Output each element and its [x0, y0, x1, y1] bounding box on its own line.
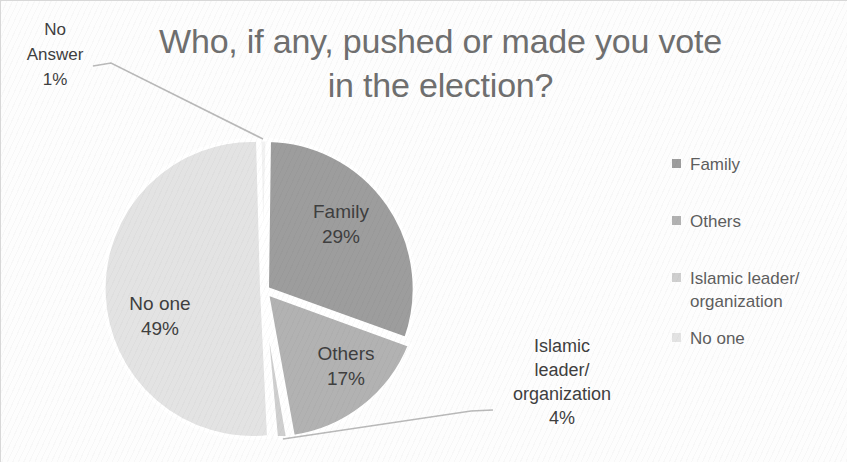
- slice-label-others-name: Others: [317, 343, 374, 364]
- legend-label-no-one: No one: [690, 327, 745, 350]
- slice-label-islamic-leader: Islamic leader/ organization 4%: [496, 334, 628, 430]
- slice-label-no-one-value: 49%: [104, 316, 216, 341]
- slice-label-no-answer-value: 1%: [11, 67, 99, 92]
- chart-title-line-1: Who, if any, pushed or made you vote: [113, 19, 768, 63]
- slice-label-islamic-line-1: Islamic: [496, 334, 628, 358]
- pie-chart-figure: Who, if any, pushed or made you vote in …: [0, 0, 847, 462]
- pie-slice-no-one[interactable]: [104, 140, 269, 438]
- legend-swatch-icon-others: [672, 216, 681, 225]
- legend-item-islamic-leader[interactable]: Islamic leader/ organization: [672, 267, 844, 313]
- slice-label-others: Others 17%: [301, 341, 391, 391]
- slice-label-family-value: 29%: [296, 224, 386, 249]
- legend-label-family: Family: [690, 153, 740, 176]
- legend-swatch-icon-family: [672, 159, 681, 168]
- slice-label-no-one-name: No one: [129, 293, 190, 314]
- chart-legend: Family Others Islamic leader/ organizati…: [672, 153, 844, 384]
- legend-swatch-icon-no-one: [672, 333, 681, 342]
- legend-label-islamic-leader-line-2: organization: [690, 292, 783, 311]
- legend-swatch-icon-islamic-leader: [672, 273, 681, 282]
- slice-label-islamic-line-2: leader/: [496, 358, 628, 382]
- slice-label-no-one: No one 49%: [104, 291, 216, 341]
- slice-label-islamic-value: 4%: [496, 406, 628, 430]
- legend-item-family[interactable]: Family: [672, 153, 844, 176]
- legend-item-no-one[interactable]: No one: [672, 327, 844, 350]
- legend-item-others[interactable]: Others: [672, 210, 844, 233]
- legend-label-islamic-leader-line-1: Islamic leader/: [690, 269, 800, 288]
- slice-label-family: Family 29%: [296, 199, 386, 249]
- chart-title: Who, if any, pushed or made you vote in …: [113, 19, 768, 107]
- slice-label-no-answer-line-2: Answer: [11, 42, 99, 67]
- legend-label-others: Others: [690, 210, 741, 233]
- slice-label-no-answer: No Answer 1%: [11, 17, 99, 92]
- slice-label-others-value: 17%: [301, 366, 391, 391]
- legend-label-islamic-leader: Islamic leader/ organization: [690, 267, 800, 313]
- slice-label-no-answer-line-1: No: [11, 17, 99, 42]
- slice-label-islamic-line-3: organization: [496, 382, 628, 406]
- slice-label-family-name: Family: [313, 201, 369, 222]
- chart-title-line-2: in the election?: [113, 63, 768, 107]
